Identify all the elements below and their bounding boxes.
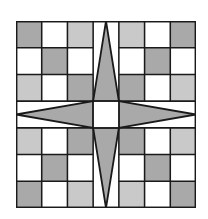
top-right-checkerboard — [119, 21, 196, 101]
corner-cell — [145, 21, 171, 48]
bottom-right-checkerboard — [119, 128, 196, 208]
corner-cell — [170, 181, 196, 208]
corner-cell — [67, 128, 93, 155]
corner-cell — [42, 21, 68, 48]
corner-cell — [16, 128, 42, 155]
bottom-left-checkerboard — [16, 128, 93, 208]
corner-cell — [119, 181, 145, 208]
corner-cell — [16, 48, 42, 75]
center-square — [93, 101, 119, 128]
corner-cell — [170, 21, 196, 48]
corner-cell — [145, 48, 171, 75]
corner-cell — [67, 155, 93, 182]
corner-cell — [16, 181, 42, 208]
corner-cell — [119, 48, 145, 75]
top-left-checkerboard — [16, 21, 93, 101]
quilt-block-svg — [16, 21, 196, 208]
corner-cell — [42, 74, 68, 101]
corner-cell — [119, 74, 145, 101]
quilt-block-figure — [16, 21, 196, 208]
corner-cell — [119, 128, 145, 155]
corner-cell — [170, 74, 196, 101]
corner-cell — [145, 181, 171, 208]
corner-cell — [16, 155, 42, 182]
corner-cell — [67, 74, 93, 101]
corner-cell — [42, 128, 68, 155]
corner-cell — [16, 74, 42, 101]
corner-cell — [145, 155, 171, 182]
corner-cell — [170, 128, 196, 155]
corner-cell — [170, 155, 196, 182]
corner-cell — [145, 128, 171, 155]
corner-cell — [119, 155, 145, 182]
corner-cell — [119, 21, 145, 48]
page-canvas — [0, 0, 208, 219]
corner-cell — [145, 74, 171, 101]
corner-cell — [16, 21, 42, 48]
corner-cell — [42, 48, 68, 75]
corner-cell — [42, 155, 68, 182]
corner-cell — [67, 21, 93, 48]
corner-cell — [42, 181, 68, 208]
corner-cell — [67, 48, 93, 75]
corner-cell — [170, 48, 196, 75]
corner-cell — [67, 181, 93, 208]
